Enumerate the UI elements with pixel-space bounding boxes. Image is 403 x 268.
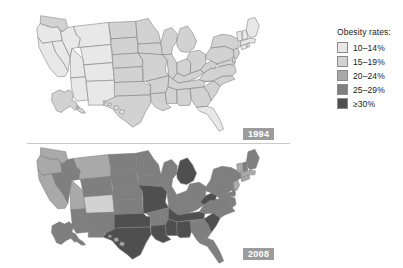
us-choropleth-map-1994: [18, 10, 290, 136]
legend-swatch-icon: [337, 42, 348, 53]
state-al: [177, 221, 192, 238]
state-wy: [80, 177, 112, 197]
state-mt: [74, 22, 111, 47]
state-me: [246, 17, 259, 37]
state-wy: [80, 45, 112, 65]
year-badge-1994: 1994: [243, 128, 274, 140]
state-vt: [237, 163, 243, 173]
state-mi: [177, 158, 197, 185]
legend-swatch-icon: [337, 56, 348, 67]
state-al: [177, 89, 192, 106]
state-me: [246, 149, 259, 169]
legend-item-label: 10–14%: [353, 43, 385, 53]
state-wi: [161, 160, 177, 187]
state-ms: [165, 219, 177, 235]
legend-swatch-icon: [337, 98, 348, 109]
state-ks: [113, 199, 143, 215]
legend-item-label: ≥30%: [353, 99, 375, 109]
state-ks: [113, 67, 143, 83]
state-tx: [104, 95, 152, 127]
state-ne: [113, 185, 143, 200]
legend: Obesity rates: 10–14%15–19%20–24%25–29%≥…: [337, 27, 403, 111]
panel-divider: [27, 143, 290, 144]
state-mt: [74, 154, 111, 179]
state-co: [84, 63, 115, 82]
state-ms: [165, 87, 177, 103]
legend-swatch-icon: [337, 84, 348, 95]
state-co: [84, 195, 115, 214]
state-nd: [109, 21, 137, 39]
obesity-map-figure: 1994 2008 Obesity rates: 10–14%15–19%20–…: [0, 0, 403, 268]
state-fl: [196, 238, 223, 263]
legend-rows: 10–14%15–19%20–24%25–29%≥30%: [337, 41, 403, 110]
state-tx: [104, 227, 152, 259]
legend-item: ≥30%: [337, 97, 403, 110]
map-panel-1994: [18, 10, 290, 136]
state-ia: [138, 175, 162, 187]
state-wi: [161, 28, 177, 55]
legend-item-label: 15–19%: [353, 57, 385, 67]
legend-item-label: 25–29%: [353, 85, 385, 95]
legend-item-label: 20–24%: [353, 71, 385, 81]
year-badge-2008: 2008: [243, 248, 274, 260]
legend-swatch-icon: [337, 70, 348, 81]
state-mi: [177, 26, 197, 53]
legend-item: 20–24%: [337, 69, 403, 82]
state-ia: [138, 43, 162, 55]
state-ne: [113, 53, 143, 68]
state-vt: [237, 31, 243, 41]
legend-title: Obesity rates:: [337, 27, 403, 37]
state-mn: [136, 150, 161, 175]
state-mn: [136, 18, 161, 43]
legend-item: 25–29%: [337, 83, 403, 96]
legend-item: 15–19%: [337, 55, 403, 68]
state-sd: [111, 169, 138, 187]
legend-item: 10–14%: [337, 41, 403, 54]
state-fl: [196, 106, 223, 131]
state-az: [71, 209, 89, 233]
state-nd: [109, 153, 137, 171]
state-sd: [111, 37, 138, 55]
state-az: [71, 77, 89, 101]
